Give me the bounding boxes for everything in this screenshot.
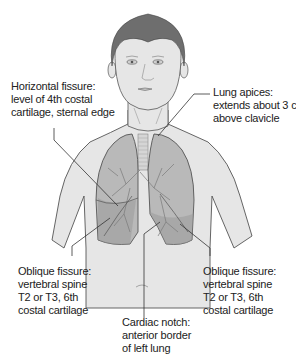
head	[108, 14, 188, 110]
label-cardiac-notch: Cardiac notch: anterior border of left l…	[122, 316, 191, 355]
label-lung-apices: Lung apices: extends about 3 cm above cl…	[213, 86, 296, 125]
label-oblique-fissure-right: Oblique fissure: vertebral spine T2 or T…	[18, 265, 91, 317]
label-horizontal-fissure: Horizontal fissure: level of 4th costal …	[11, 80, 115, 119]
label-oblique-fissure-left: Oblique fissure: vertebral spine T2 or T…	[203, 265, 276, 317]
